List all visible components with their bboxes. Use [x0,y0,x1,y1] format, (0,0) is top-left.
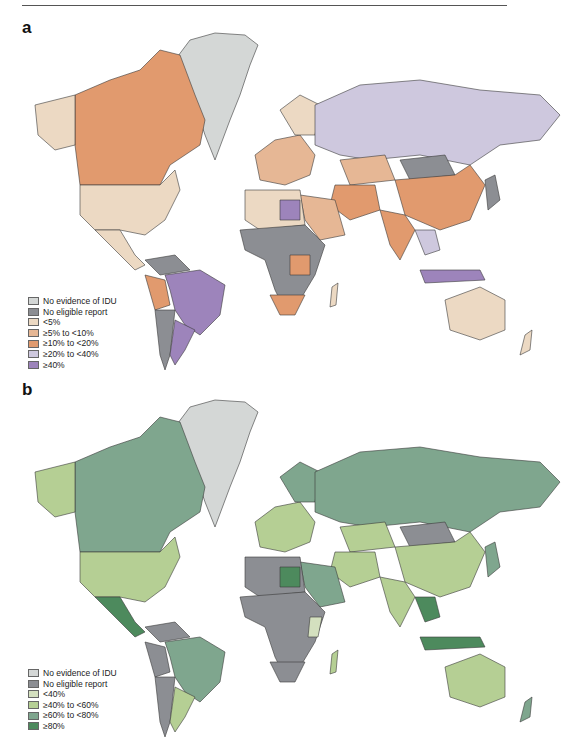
region-thailand [415,597,440,622]
region-japan [485,175,500,210]
region-russia [315,80,560,165]
region-alaska [35,95,75,150]
region-kazakhstan [340,155,395,185]
legend-a: No evidence of IDU No eligible report <5… [28,296,117,370]
legend-item: ≥40% to <60% [28,700,117,711]
region-kazakhstan [340,522,395,552]
region-canada [75,50,205,185]
region-japan [485,542,500,577]
region-madagascar [330,650,338,674]
legend-item: No eligible report [28,307,117,318]
region-indonesia [420,637,485,650]
region-libya [280,567,300,587]
legend-item: No evidence of IDU [28,668,117,679]
legend-item: No evidence of IDU [28,296,117,307]
region-south-africa [270,295,305,315]
legend-b: No evidence of IDU No eligible report <4… [28,668,117,732]
legend-item: ≥5% to <10% [28,328,117,339]
region-madagascar [330,283,338,307]
region-australia [445,287,505,340]
region-scandinavia [280,95,320,135]
region-peru [145,275,170,310]
region-australia [445,654,505,707]
legend-item: <40% [28,689,117,700]
legend-item: No eligible report [28,679,117,690]
region-india [380,577,415,627]
region-indonesia [420,270,485,283]
header-rule [22,5,507,6]
region-europe [255,135,315,185]
region-peru [145,642,170,677]
legend-item: ≥80% [28,721,117,732]
region-russia [315,447,560,532]
legend-item: ≥20% to <40% [28,349,117,360]
legend-item: ≥60% to <80% [28,710,117,721]
legend-item: <5% [28,317,117,328]
legend-item: ≥10% to <20% [28,338,117,349]
region-alaska [35,462,75,517]
region-new-zealand [520,697,532,722]
region-mexico [95,597,145,637]
region-east-africa [308,617,322,637]
region-dr-congo [290,255,310,275]
region-se-asia [415,230,440,255]
region-libya [280,200,300,220]
region-south-africa [270,662,305,682]
region-venezuela [145,622,190,642]
region-venezuela [145,255,190,275]
region-europe [255,502,315,552]
region-new-zealand [520,330,532,355]
region-scandinavia [280,462,320,502]
region-india [380,210,415,260]
legend-item: ≥40% [28,360,117,371]
region-canada [75,417,205,552]
region-mexico [95,230,145,270]
